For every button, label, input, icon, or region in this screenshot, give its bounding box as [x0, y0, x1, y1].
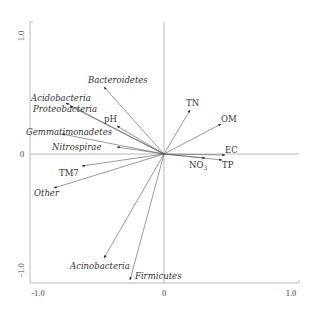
label-firmicutes: Firmicutes [134, 271, 182, 281]
label-no3-subscript: 3 [203, 164, 207, 171]
label-gemmatimonadetes: Gemmatimonadetes [26, 127, 113, 137]
label-tp: TP [222, 160, 234, 170]
label-bacteroidetes: Bacteroidetes [87, 75, 148, 85]
x-tick-zero: 0 [162, 288, 166, 298]
label-no3: NO3 [189, 160, 207, 171]
y-tick-zero: 0 [20, 149, 24, 159]
label-om: OM [221, 114, 237, 124]
y-tick-max: 1.0 [16, 31, 26, 42]
x-tick-min: -1.0 [31, 288, 44, 298]
axes [30, 22, 299, 283]
vector-firmicutes [130, 154, 164, 280]
label-ph: pH [104, 114, 117, 124]
label-tm7: TM7 [59, 168, 79, 178]
vector-tm7 [82, 154, 164, 166]
label-tn: TN [186, 98, 200, 108]
tick-labels: 1.0 0 -1.0 -1.0 0 1.0 [16, 31, 296, 298]
label-acidobacteria: Acidobacteria [30, 93, 91, 103]
y-tick-min: -1.0 [16, 263, 26, 276]
label-acinobacteria: Acinobacteria [69, 261, 130, 271]
label-nitrospirae: Nitrospirae [51, 142, 101, 152]
vector-ph [117, 126, 164, 154]
vectors [54, 87, 225, 280]
vector-labels: Bacteroidetes Acidobacteria Proteobacter… [26, 75, 238, 281]
label-proteobacteria: Proteobacteria [32, 104, 97, 114]
label-other: Other [34, 188, 60, 198]
label-no3-base: NO [189, 160, 203, 170]
label-ec: EC [225, 145, 238, 155]
x-tick-max: 1.0 [286, 288, 297, 298]
rda-biplot: 1.0 0 -1.0 -1.0 0 1.0 Bacteroidetes Acid… [0, 0, 315, 311]
